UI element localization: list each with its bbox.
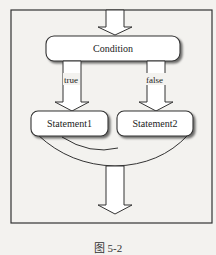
statement2-label: Statement2 <box>133 118 178 129</box>
true-arrow-icon <box>55 61 89 111</box>
exit-arrow-icon <box>98 166 132 214</box>
false-label: false <box>146 75 163 85</box>
condition-label: Condition <box>93 43 133 54</box>
merge-curve-inner <box>62 137 118 150</box>
true-label: true <box>64 75 78 85</box>
statement2-node: Statement2 <box>117 111 193 136</box>
figure-caption: 图 5-2 <box>0 239 216 255</box>
statement1-node: Statement1 <box>31 111 108 136</box>
false-arrow-icon <box>139 61 173 111</box>
entry-arrow-icon <box>98 10 132 35</box>
merge-curve-outer <box>38 135 188 166</box>
statement1-label: Statement1 <box>47 118 92 129</box>
condition-node: Condition <box>46 36 180 61</box>
